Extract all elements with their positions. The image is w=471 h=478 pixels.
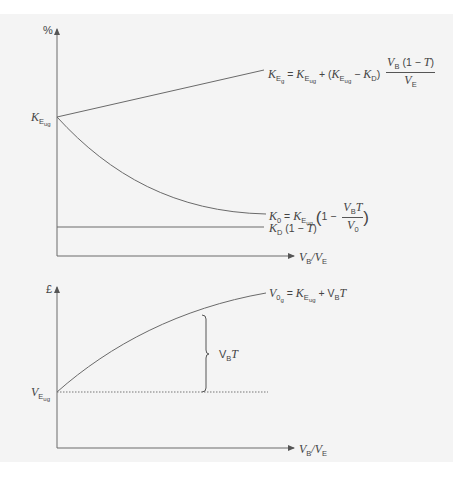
keg-fraction: VB (1 − T) VE (386, 56, 435, 88)
k0-curve (57, 117, 266, 214)
top-x-axis-label: VB/VE (299, 251, 327, 266)
k0-fraction: VBT V0 (342, 201, 363, 233)
vbt-brace (202, 315, 209, 392)
top-origin-label-keug: KEug (31, 111, 51, 127)
v0g-formula: V0g = KEug + VBT (269, 287, 346, 303)
v0g-curve (57, 293, 266, 392)
bottom-chart (57, 287, 294, 448)
keg-formula: KEg = KEug + (KEug − KD) VB (1 − T) VE (268, 62, 435, 88)
bottom-origin-label-veug: VEug (31, 386, 50, 402)
bottom-y-axis-label: £ (46, 284, 52, 295)
vbt-brace-label: VBT (219, 348, 238, 363)
keg-line (57, 70, 264, 117)
kd-label: KD (1 − T) (269, 222, 317, 237)
bottom-x-axis-label: VB/VE (299, 443, 327, 458)
top-chart (57, 29, 294, 256)
top-y-axis-label: % (43, 25, 53, 36)
